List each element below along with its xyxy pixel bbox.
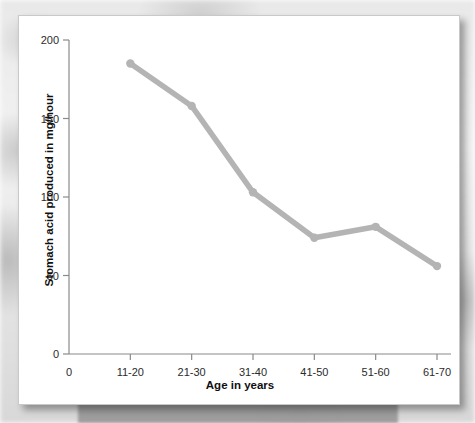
x-tick-label: 61-70	[423, 366, 451, 378]
chart-svg	[19, 16, 461, 406]
data-point-marker	[126, 59, 134, 67]
data-line-series	[130, 64, 437, 267]
x-tick-label: 31-40	[239, 366, 267, 378]
plot-area: 050100150200 011-2021-3031-4041-5051-606…	[19, 16, 461, 406]
x-tick-label: 41-50	[300, 366, 328, 378]
x-tick-marks	[130, 354, 437, 360]
x-tick-label: 0	[66, 366, 72, 378]
y-tick-marks	[63, 40, 69, 354]
data-point-marker	[371, 223, 379, 231]
x-tick-label: 11-20	[117, 366, 144, 378]
x-axis-title: Age in years	[19, 379, 461, 391]
y-axis-title: Stomach acid produced in mg/hour	[43, 65, 55, 315]
y-tick-label: 200	[19, 34, 59, 46]
chart-card: 050100150200 011-2021-3031-4041-5051-606…	[18, 15, 460, 405]
x-tick-label: 51-60	[362, 366, 390, 378]
data-point-marker	[187, 102, 195, 110]
data-point-marker	[310, 234, 318, 242]
data-point-marker	[249, 188, 257, 196]
data-point-marker	[433, 262, 441, 270]
x-tick-label: 21-30	[178, 366, 206, 378]
y-tick-label: 0	[19, 348, 59, 360]
